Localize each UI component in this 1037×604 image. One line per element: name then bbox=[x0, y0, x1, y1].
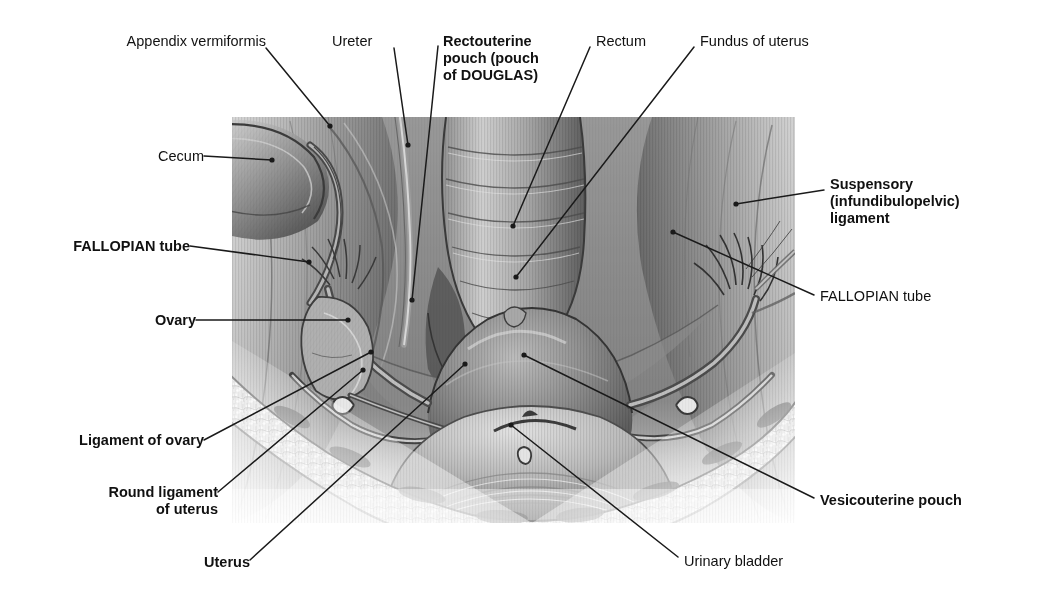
label-ovary: Ovary bbox=[0, 312, 196, 329]
label-suspensory-ligament: Suspensory (infundibulopelvic) ligament bbox=[830, 176, 1030, 227]
label-fundus-of-uterus: Fundus of uterus bbox=[700, 33, 880, 50]
label-rectouterine-pouch: Rectouterine pouch (pouch of DOUGLAS) bbox=[443, 33, 583, 84]
label-round-ligament-of-uterus: Round ligament of uterus bbox=[0, 484, 218, 518]
label-vesicouterine-pouch: Vesicouterine pouch bbox=[820, 492, 1030, 509]
figure-canvas: Appendix vermiformis Cecum Ureter Rectou… bbox=[0, 0, 1037, 604]
label-appendix-vermiformis: Appendix vermiformis bbox=[0, 33, 266, 50]
leader-appendix-vermiformis bbox=[266, 48, 330, 126]
label-fallopian-tube-right: FALLOPIAN tube bbox=[820, 288, 1020, 305]
label-ureter: Ureter bbox=[332, 33, 442, 50]
label-ligament-of-ovary: Ligament of ovary bbox=[0, 432, 204, 449]
label-uterus: Uterus bbox=[0, 554, 250, 571]
label-cecum: Cecum bbox=[0, 148, 204, 165]
pelvis-drawing bbox=[232, 117, 795, 523]
label-urinary-bladder: Urinary bladder bbox=[684, 553, 884, 570]
label-rectum: Rectum bbox=[596, 33, 692, 50]
anatomical-illustration bbox=[232, 117, 795, 523]
label-fallopian-tube-left: FALLOPIAN tube bbox=[0, 238, 190, 255]
